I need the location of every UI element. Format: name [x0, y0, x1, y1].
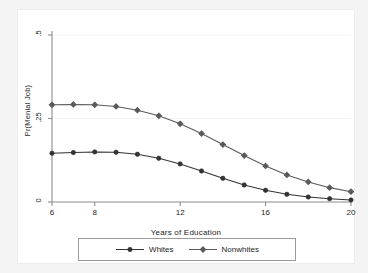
legend-label-whites: Whites: [149, 245, 173, 254]
y-tick-label-top: .5: [34, 26, 43, 42]
legend-item-whites: Whites: [115, 245, 173, 254]
y-tick-label-bottom: 0: [34, 193, 43, 209]
y-axis-title: Pr(Menial Job): [23, 71, 32, 151]
plot-canvas: Pr(Menial Job) .5 .25 0 6 8 12 16 20 Yea…: [18, 10, 354, 263]
x-tick-label-8: 8: [85, 208, 105, 217]
legend-marker-nonwhites: [188, 245, 218, 254]
line-chart: [18, 10, 354, 263]
figure-root: Pr(Menial Job) .5 .25 0 6 8 12 16 20 Yea…: [0, 0, 368, 273]
x-tick-label-12: 12: [170, 208, 190, 217]
legend-marker-whites: [115, 245, 145, 254]
x-tick-label-16: 16: [256, 208, 276, 217]
legend-label-nonwhites: Nonwhites: [222, 245, 259, 254]
x-tick-label-6: 6: [42, 208, 62, 217]
x-tick-label-20: 20: [341, 208, 361, 217]
legend-item-nonwhites: Nonwhites: [188, 245, 259, 254]
y-tick-label-mid: .25: [34, 109, 43, 125]
x-axis-title: Years of Education: [18, 228, 354, 237]
chart-legend: Whites Nonwhites: [78, 238, 296, 261]
